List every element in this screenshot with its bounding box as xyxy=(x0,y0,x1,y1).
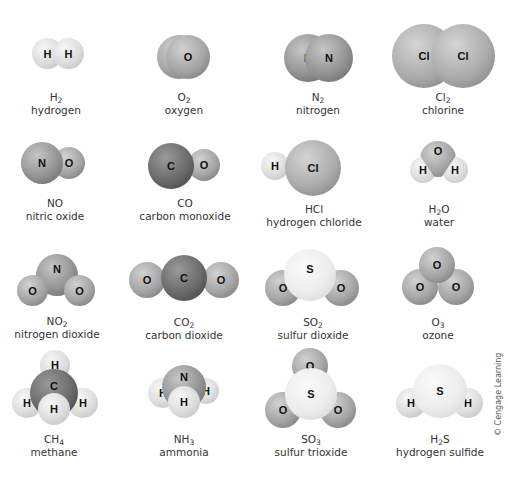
molecule-name: water xyxy=(424,216,454,228)
formula: CO xyxy=(174,316,190,328)
atom-nitrogen: N xyxy=(21,142,63,184)
formula: SO xyxy=(303,316,318,328)
molecule-name: carbon dioxide xyxy=(145,329,223,341)
label-cl2: Cl2 chlorine xyxy=(373,91,508,117)
atom-hydrogen: H xyxy=(53,38,84,69)
label-h2o: H2O water xyxy=(369,203,508,229)
formula: NH xyxy=(174,433,190,445)
atom-hydrogen: H xyxy=(168,386,200,418)
atom-carbon: C xyxy=(161,255,207,301)
atom-oxygen: O xyxy=(17,275,48,306)
formula: CO xyxy=(177,197,193,209)
atom-sulfur: S xyxy=(285,368,337,420)
label-co2: CO2 carbon dioxide xyxy=(114,316,254,342)
atom-oxygen: O xyxy=(129,262,165,298)
formula: O xyxy=(431,316,439,328)
formula: SO xyxy=(301,433,316,445)
atom-oxygen: O xyxy=(419,247,455,283)
label-o3: O3 ozone xyxy=(368,316,508,342)
label-h2s: H2S hydrogen sulfide xyxy=(370,433,508,459)
atom-chlorine: Cl xyxy=(431,24,495,88)
formula-tail: S xyxy=(443,433,450,445)
atom-carbon: C xyxy=(148,143,194,189)
molecule-name: nitric oxide xyxy=(26,210,84,222)
molecule-name: nitrogen dioxide xyxy=(14,328,99,340)
molecule-name: hydrogen sulfide xyxy=(396,446,484,458)
atom-oxygen: O xyxy=(203,262,239,298)
label-so2: SO2 sulfur dioxide xyxy=(243,316,383,342)
molecule-name: ozone xyxy=(422,329,453,341)
molecule-name: oxygen xyxy=(165,104,203,116)
formula: N xyxy=(312,91,320,103)
molecule-name: hydrogen xyxy=(31,104,81,116)
molecule-name: carbon monoxide xyxy=(139,210,230,222)
formula: CH xyxy=(44,433,59,445)
molecule-name: methane xyxy=(30,446,77,458)
molecule-name: ammonia xyxy=(159,446,208,458)
atom-chlorine: Cl xyxy=(285,140,341,196)
formula-tail: O xyxy=(441,203,449,215)
label-o2: O2 oxygen xyxy=(114,91,254,117)
formula: NO xyxy=(47,197,63,209)
molecule-name: chlorine xyxy=(422,104,464,116)
copyright-notice: © Cengage Learning xyxy=(494,353,503,436)
atom-sulfur: S xyxy=(284,249,336,301)
formula: O xyxy=(177,91,185,103)
formula: Cl xyxy=(435,91,445,103)
formula: H xyxy=(50,91,58,103)
molecule-name: sulfur dioxide xyxy=(278,329,349,341)
molecule-name: nitrogen xyxy=(296,104,340,116)
molecule-name: hydrogen chloride xyxy=(266,216,361,228)
atom-nitrogen: N xyxy=(305,34,353,82)
formula: NO xyxy=(47,315,63,327)
label-n2: N2 nitrogen xyxy=(248,91,388,117)
label-nh3: NH3 ammonia xyxy=(114,433,254,459)
label-co: CO carbon monoxide xyxy=(115,197,255,223)
label-hcl: HCl hydrogen chloride xyxy=(244,203,384,229)
atom-oxygen: O xyxy=(64,275,95,306)
molecule-name: sulfur trioxide xyxy=(275,446,348,458)
label-so3: SO3 sulfur trioxide xyxy=(241,433,381,459)
formula: HCl xyxy=(305,203,323,215)
label-no2: NO2 nitrogen dioxide xyxy=(0,315,127,341)
atom-oxygen: O xyxy=(166,35,210,79)
label-h2: H2 hydrogen xyxy=(0,91,126,117)
atom-sulfur: S xyxy=(413,364,467,418)
label-ch4: CH4 methane xyxy=(0,433,124,459)
atom-hydrogen: H xyxy=(38,393,70,425)
label-no: NO nitric oxide xyxy=(0,197,125,223)
